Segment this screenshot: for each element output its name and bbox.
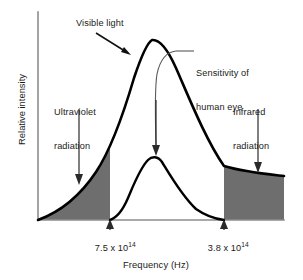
x-axis-title: Frequency (Hz): [100, 259, 212, 270]
x-tick-left-exponent: 14: [128, 241, 136, 248]
annotation-visible-light: Visible light: [76, 18, 124, 29]
x-tick-right-exponent: 14: [241, 241, 249, 248]
eye-sensitivity-curve: [110, 157, 224, 220]
x-tick-left-mantissa: 7.5 x 10: [95, 243, 129, 253]
spectrum-figure: Visible light Sensitivity of human eye U…: [0, 0, 303, 280]
annotation-ultraviolet-line-2: radiation: [54, 141, 96, 152]
annotation-infrared-line-2: radiation: [233, 141, 269, 152]
x-tick-right-mantissa: 3.8 x 10: [208, 243, 242, 253]
annotation-infrared-radiation: Infrared radiation: [233, 84, 269, 175]
y-axis-title: Relative intensity: [16, 55, 27, 165]
annotation-sensitivity-line-1: Sensitivity of: [196, 68, 249, 79]
annotation-infrared-line-1: Infrared: [233, 107, 269, 118]
annotation-ultraviolet-line-1: Ultraviolet: [54, 107, 96, 118]
sensitivity-callout: [152, 51, 194, 156]
annotation-ultraviolet-radiation: Ultraviolet radiation: [54, 84, 96, 175]
visible-light-callout: [96, 33, 131, 55]
